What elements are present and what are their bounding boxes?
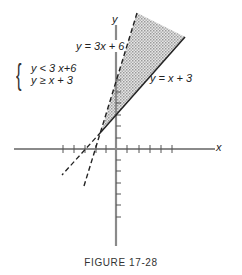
system-brace: { xyxy=(16,60,22,90)
label-line-x-plus-3: y = x + 3 xyxy=(150,72,192,84)
x-axis-label: x xyxy=(216,141,222,153)
figure-caption: FIGURE 17-28 xyxy=(0,257,242,268)
y-axis-label: y xyxy=(112,13,118,25)
line-x-plus-3-dashed xyxy=(62,132,101,175)
inequality-2: y ≥ x + 3 xyxy=(31,74,76,86)
inequality-system: y < 3 x+6 y ≥ x + 3 xyxy=(22,62,76,86)
label-line-3x-plus-6: y = 3x + 6 xyxy=(76,40,124,52)
inequality-1: y < 3 x+6 xyxy=(31,62,76,74)
